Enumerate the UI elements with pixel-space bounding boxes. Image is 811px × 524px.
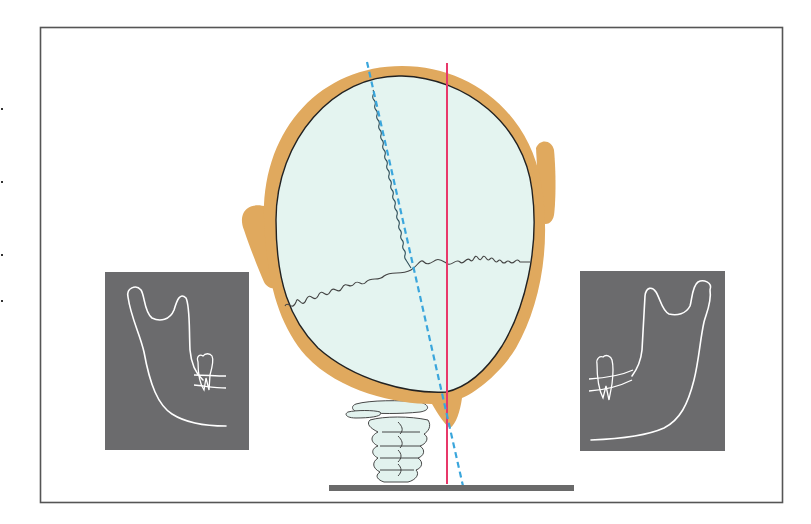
skull-ellipse bbox=[276, 76, 534, 392]
ground-bar bbox=[329, 485, 574, 491]
mandible-panel-left bbox=[105, 272, 249, 450]
mandible-panel-right bbox=[580, 271, 725, 451]
figure-canvas bbox=[0, 0, 811, 524]
